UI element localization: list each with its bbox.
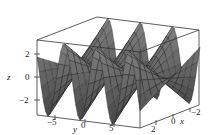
y-axis-label: y [73, 125, 77, 134]
y-tick-5: 5 [109, 124, 114, 133]
surface-plot [0, 0, 212, 135]
x-axis-label: x [180, 117, 184, 126]
x-tick-0: 0 [171, 117, 176, 126]
y-tick-0: 0 [81, 121, 86, 130]
z-axis-label: z [7, 73, 11, 82]
y-tick-neg5: −5 [47, 118, 57, 127]
z-tick-0: 0 [25, 73, 30, 82]
x-tick-2: 2 [151, 125, 156, 134]
x-tick-neg2: −2 [191, 108, 201, 117]
surface-mesh [37, 18, 200, 124]
z-tick-neg2: −2 [19, 96, 29, 105]
z-tick-2: 2 [25, 50, 30, 59]
